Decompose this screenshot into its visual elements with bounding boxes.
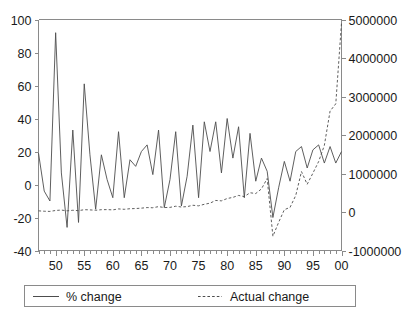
x-axis-ticks: 5055606570758085909500 <box>40 251 349 273</box>
left-axis-ticks: -40-20020406080100 <box>11 14 39 259</box>
left-tick-label: 100 <box>11 14 32 28</box>
x-tick-label: 70 <box>163 259 177 273</box>
left-tick-label: 80 <box>18 47 32 61</box>
left-tick-label: -20 <box>13 212 31 226</box>
plot-frame <box>39 20 342 251</box>
series-line-change <box>39 33 342 228</box>
left-tick-label: -40 <box>13 245 31 259</box>
right-tick-label: -1000000 <box>349 245 402 259</box>
right-tick-label: 1000000 <box>349 168 398 182</box>
left-tick-label: 40 <box>18 113 32 127</box>
x-tick-label: 90 <box>277 259 291 273</box>
right-tick-label: 5000000 <box>349 14 398 28</box>
left-tick-label: 60 <box>18 80 32 94</box>
x-tick-label: 60 <box>106 259 120 273</box>
right-tick-label: 0 <box>349 206 356 220</box>
series-line-actual-change <box>39 23 342 236</box>
x-tick-label: 75 <box>192 259 206 273</box>
left-tick-label: 0 <box>25 179 32 193</box>
x-tick-label: 80 <box>220 259 234 273</box>
left-tick-label: 20 <box>18 146 32 160</box>
x-tick-label: 85 <box>249 259 263 273</box>
legend-label-pct-change: % change <box>66 290 122 304</box>
dual-axis-line-chart: -40-20020406080100 -10000000100000020000… <box>0 0 409 318</box>
legend: % change Actual change <box>25 286 356 307</box>
x-tick-label: 95 <box>306 259 320 273</box>
right-tick-label: 4000000 <box>349 52 398 66</box>
right-axis-ticks: -100000001000000200000030000004000000500… <box>342 14 402 259</box>
right-tick-label: 3000000 <box>349 91 398 105</box>
data-series-layer <box>39 23 342 236</box>
x-tick-label: 65 <box>134 259 148 273</box>
x-tick-label: 00 <box>335 259 349 273</box>
right-tick-label: 2000000 <box>349 129 398 143</box>
legend-label-actual-change: Actual change <box>230 290 309 304</box>
chart-container: -40-20020406080100 -10000000100000020000… <box>0 0 409 318</box>
x-tick-label: 55 <box>77 259 91 273</box>
x-tick-label: 50 <box>49 259 63 273</box>
